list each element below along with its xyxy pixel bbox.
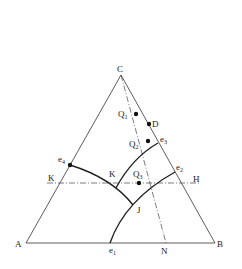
label-k-left: K (48, 173, 55, 183)
label-e4: e4 (58, 154, 65, 165)
line-c-n (121, 75, 166, 243)
label-c: C (117, 64, 123, 74)
point-e4 (68, 163, 72, 167)
triangle-outline (26, 75, 215, 243)
point-q2 (146, 139, 150, 143)
label-q2: Q2 (129, 139, 139, 150)
dash-dot-lines (47, 75, 200, 243)
point-q3 (137, 181, 141, 185)
label-n: N (161, 246, 168, 256)
label-e3: e3 (160, 134, 167, 145)
point-d (147, 122, 151, 126)
label-b: B (217, 239, 223, 249)
label-k-mid: K (109, 169, 116, 179)
point-labels: CABQ1DQ2e3e4e2KKQ3HJe1N (15, 64, 223, 256)
curve-e4-j (70, 165, 133, 205)
label-j: J (137, 205, 141, 215)
ternary-phase-diagram: CABQ1DQ2e3e4e2KKQ3HJe1N (0, 0, 242, 269)
label-q1: Q1 (118, 109, 128, 120)
label-a: A (15, 239, 22, 249)
label-e2: e2 (176, 162, 183, 173)
label-e1: e1 (109, 245, 116, 256)
label-q3: Q3 (133, 169, 143, 180)
label-h: H (193, 174, 200, 184)
label-d: D (152, 119, 159, 129)
point-q1 (134, 112, 138, 116)
boundary-curves (70, 143, 175, 243)
